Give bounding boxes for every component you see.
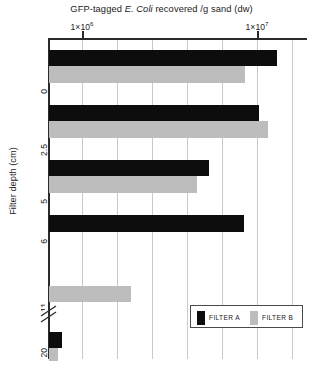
x-tick-label-1e7-mantissa: 1×10 [246, 22, 265, 32]
y-axis-spine [48, 38, 50, 359]
bar-filter-a-depth-2-5 [49, 105, 259, 121]
y-axis-title: Filter depth (cm) [8, 116, 18, 246]
x-axis-spine [48, 38, 307, 40]
bar-filter-b-depth-2-5 [49, 121, 268, 138]
chart-figure: GFP-tagged E. Coli recovered /g sand (dw… [0, 0, 323, 386]
chart-title-before: GFP-tagged [70, 4, 124, 14]
legend-item-filter-a: FILTER A [197, 306, 240, 329]
bar-filter-a-depth-6 [49, 215, 244, 232]
y-axis-tick-labels: 0 2.5 5 6 11 20 [0, 38, 44, 359]
bar-filter-a-depth-0 [49, 50, 277, 66]
legend-item-filter-b: FILTER B [250, 306, 293, 329]
x-tick-label-1e7-exponent: 7 [265, 20, 268, 27]
chart-legend: FILTER A FILTER B [190, 305, 303, 328]
gridline-3 [152, 40, 153, 359]
x-tickmark-1e7 [257, 31, 259, 40]
gridline-1 [82, 40, 83, 359]
gridline-4 [187, 40, 188, 359]
bar-filter-b-depth-5 [49, 176, 197, 193]
bar-filter-a-depth-5 [49, 160, 209, 176]
bar-filter-b-depth-11 [49, 286, 131, 302]
chart-title-italic-species: E. Coli [125, 4, 153, 14]
bar-filter-b-depth-20 [49, 348, 58, 361]
bar-filter-b-depth-0 [49, 66, 245, 83]
x-tick-label-1e6-mantissa: 1×10 [71, 22, 90, 32]
x-tickmark-1e6 [82, 31, 84, 40]
chart-title-after: recovered /g sand (dw) [153, 4, 253, 14]
chart-title: GFP-tagged E. Coli recovered /g sand (dw… [0, 4, 323, 14]
legend-swatch-filter-b-icon [250, 311, 258, 325]
legend-swatch-filter-a-icon [197, 311, 205, 325]
legend-label-filter-b: FILTER B [262, 314, 293, 321]
legend-label-filter-a: FILTER A [209, 314, 240, 321]
bar-filter-a-depth-20 [49, 332, 62, 348]
x-tick-label-1e6-exponent: 6 [90, 20, 93, 27]
gridline-2 [117, 40, 118, 359]
